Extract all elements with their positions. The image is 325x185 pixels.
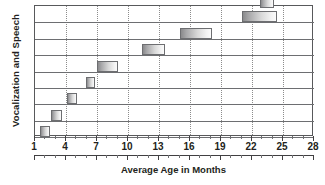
x-tick-label: 4 <box>62 141 68 152</box>
x-tick-minor <box>179 136 180 139</box>
range-bar <box>86 77 95 88</box>
x-ruler-tick-minor <box>75 155 76 158</box>
range-bar <box>242 11 277 22</box>
x-tick-label: 19 <box>214 141 225 152</box>
x-ruler-tick-minor <box>179 155 180 158</box>
x-ruler-tick-major <box>282 155 283 160</box>
x-ruler-tick-major <box>127 155 128 160</box>
y-axis-label: Vocalization and Speech <box>0 0 30 140</box>
range-bar <box>51 110 62 121</box>
x-ruler-tick-minor <box>86 155 87 158</box>
gridline-horizontal <box>35 39 314 40</box>
range-bar <box>142 44 165 55</box>
gridline-horizontal <box>35 22 314 23</box>
gridline-vertical <box>221 6 222 135</box>
x-ruler-tick-minor <box>303 155 304 158</box>
x-tick-minor <box>44 136 45 139</box>
range-bar <box>180 28 212 39</box>
x-ruler-tick-major <box>313 155 314 160</box>
x-tick-label: 7 <box>93 141 99 152</box>
x-ruler-tick-minor <box>117 155 118 158</box>
x-tick-label: 16 <box>183 141 194 152</box>
x-ruler-tick-minor <box>210 155 211 158</box>
range-bar <box>67 93 77 104</box>
x-tick-label: 25 <box>276 141 287 152</box>
gridline-horizontal <box>35 72 314 73</box>
x-ruler-tick-minor <box>261 155 262 158</box>
x-tick-label: 28 <box>307 141 318 152</box>
plot-area <box>34 5 313 136</box>
x-ruler-tick-major <box>189 155 190 160</box>
x-ruler-tick-major <box>220 155 221 160</box>
x-ruler-tick-minor <box>199 155 200 158</box>
chart-container: Vocalization and Speech 1471013161922252… <box>0 0 325 185</box>
x-tick-minor <box>292 136 293 139</box>
gridline-vertical <box>128 6 129 135</box>
gridline-horizontal <box>35 121 314 122</box>
x-ruler-tick-major <box>96 155 97 160</box>
x-ruler-tick-minor <box>292 155 293 158</box>
x-ruler-tick-minor <box>272 155 273 158</box>
x-tick-minor <box>75 136 76 139</box>
x-tick-label: 10 <box>121 141 132 152</box>
x-ruler-tick-minor <box>230 155 231 158</box>
x-ruler-tick-major <box>158 155 159 160</box>
x-tick-minor <box>303 136 304 139</box>
x-tick-minor <box>261 136 262 139</box>
x-tick-minor <box>199 136 200 139</box>
x-ruler-tick-major <box>251 155 252 160</box>
x-tick-minor <box>210 136 211 139</box>
x-tick-minor <box>55 136 56 139</box>
plot-inner <box>35 6 312 135</box>
x-axis-secondary-ruler <box>34 155 313 161</box>
gridline-horizontal <box>35 104 314 105</box>
gridline-vertical <box>66 6 67 135</box>
gridline-vertical <box>252 6 253 135</box>
x-tick-minor <box>117 136 118 139</box>
gridline-horizontal <box>35 55 314 56</box>
gridline-horizontal <box>35 88 314 89</box>
x-ruler-tick-minor <box>44 155 45 158</box>
y-axis-label-text: Vocalization and Speech <box>10 14 21 127</box>
x-tick-minor <box>168 136 169 139</box>
x-tick-label: 22 <box>245 141 256 152</box>
x-tick-minor <box>272 136 273 139</box>
x-ruler-tick-major <box>65 155 66 160</box>
gridline-vertical <box>283 6 284 135</box>
gridline-vertical <box>190 6 191 135</box>
x-tick-minor <box>137 136 138 139</box>
x-tick-label: 1 <box>31 141 37 152</box>
x-ruler-tick-minor <box>241 155 242 158</box>
x-ruler-tick-minor <box>148 155 149 158</box>
x-tick-minor <box>241 136 242 139</box>
x-tick-label: 13 <box>152 141 163 152</box>
range-bar <box>97 61 118 72</box>
x-ruler-tick-minor <box>106 155 107 158</box>
x-ruler-tick-minor <box>55 155 56 158</box>
gridline-vertical <box>159 6 160 135</box>
x-axis-tick-labels: 14710131619222528 <box>34 141 313 155</box>
x-ruler-tick-minor <box>137 155 138 158</box>
x-tick-minor <box>106 136 107 139</box>
x-tick-minor <box>86 136 87 139</box>
x-tick-minor <box>230 136 231 139</box>
x-axis-label: Average Age in Months <box>34 164 313 175</box>
x-tick-minor <box>148 136 149 139</box>
x-ruler-tick-major <box>34 155 35 160</box>
x-ruler-tick-minor <box>168 155 169 158</box>
range-bar <box>260 0 273 8</box>
